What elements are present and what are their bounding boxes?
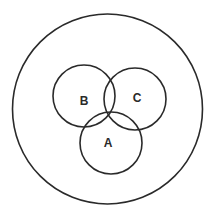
set-label-c: C	[133, 91, 142, 105]
set-label-a: A	[104, 136, 113, 150]
set-label-b: B	[80, 94, 89, 108]
venn-diagram: B C A	[0, 0, 214, 218]
universe-circle	[13, 14, 203, 204]
